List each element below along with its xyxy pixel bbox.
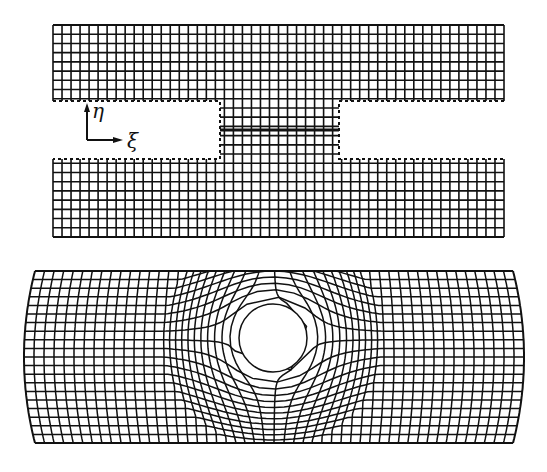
mesh-figure: η ξ [0, 0, 547, 472]
xi-label: ξ [127, 129, 139, 153]
circular-hole [239, 304, 307, 372]
eta-label: η [92, 99, 104, 123]
